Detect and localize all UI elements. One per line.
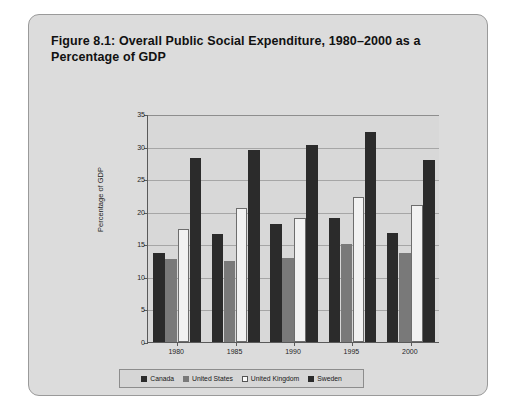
y-axis-tick-label: 5 <box>119 306 145 313</box>
legend-label: United Kingdom <box>251 375 299 382</box>
x-axis-tick-label: 1995 <box>329 348 373 355</box>
x-axis-tick <box>236 342 237 346</box>
x-axis-tick <box>352 342 353 346</box>
bar-sweden-1985 <box>248 150 260 342</box>
bar-united-kingdom-1995 <box>353 197 365 342</box>
plot-area <box>147 115 439 343</box>
gridline <box>148 115 439 116</box>
y-axis-title: Percentage of GDP <box>96 145 105 255</box>
y-axis-tick-label: 10 <box>119 274 145 281</box>
plot-wrapper: 0510152025303519801985199019952000 <box>147 115 439 343</box>
bar-united-kingdom-1980 <box>178 229 190 342</box>
legend-swatch-icon <box>183 376 189 382</box>
figure-panel: Figure 8.1: Overall Public Social Expend… <box>28 14 488 396</box>
legend-swatch-icon <box>242 376 248 382</box>
legend-item-united-states: United States <box>183 375 233 382</box>
x-axis-tick-label: 1980 <box>154 348 198 355</box>
x-axis-tick-label: 2000 <box>388 348 432 355</box>
legend-item-canada: Canada <box>141 375 174 382</box>
y-axis-tick-label: 30 <box>119 144 145 151</box>
y-axis-tick-label: 25 <box>119 176 145 183</box>
y-axis-tick-label: 35 <box>119 111 145 118</box>
legend-item-sweden: Sweden <box>308 375 342 382</box>
bar-canada-1990 <box>270 224 282 342</box>
bar-united-states-2000 <box>399 253 411 342</box>
bar-united-states-1980 <box>165 259 177 342</box>
legend-label: United States <box>192 375 233 382</box>
legend-swatch-icon <box>141 376 147 382</box>
bar-sweden-1995 <box>365 132 377 342</box>
chart: Percentage of GDP 0510152025303519801985… <box>59 77 459 389</box>
legend-swatch-icon <box>308 376 314 382</box>
y-axis-tick-label: 0 <box>119 339 145 346</box>
y-axis-tick-label: 15 <box>119 241 145 248</box>
legend-label: Canada <box>150 375 174 382</box>
bar-canada-2000 <box>387 233 399 342</box>
y-axis-tick-label: 20 <box>119 209 145 216</box>
gridline <box>148 148 439 149</box>
legend-label: Sweden <box>317 375 342 382</box>
bar-united-states-1985 <box>224 261 236 342</box>
x-axis-tick-label: 1985 <box>213 348 257 355</box>
figure-title: Figure 8.1: Overall Public Social Expend… <box>51 33 463 65</box>
legend-item-united-kingdom: United Kingdom <box>242 375 299 382</box>
chart-legend: CanadaUnited StatesUnited KingdomSweden <box>119 369 364 388</box>
bar-canada-1985 <box>212 234 224 342</box>
bar-canada-1995 <box>329 218 341 342</box>
x-axis-tick <box>294 342 295 346</box>
bar-united-kingdom-1985 <box>236 208 248 342</box>
bar-united-states-1995 <box>341 244 353 342</box>
bar-sweden-2000 <box>423 160 435 342</box>
bar-united-kingdom-2000 <box>411 205 423 342</box>
bar-sweden-1990 <box>306 145 318 342</box>
bar-sweden-1980 <box>190 158 202 342</box>
x-axis-tick-label: 1990 <box>271 348 315 355</box>
x-axis-tick <box>177 342 178 346</box>
x-axis-tick <box>411 342 412 346</box>
bar-united-kingdom-1990 <box>294 218 306 342</box>
bar-united-states-1990 <box>282 258 294 342</box>
bar-canada-1980 <box>153 253 165 342</box>
